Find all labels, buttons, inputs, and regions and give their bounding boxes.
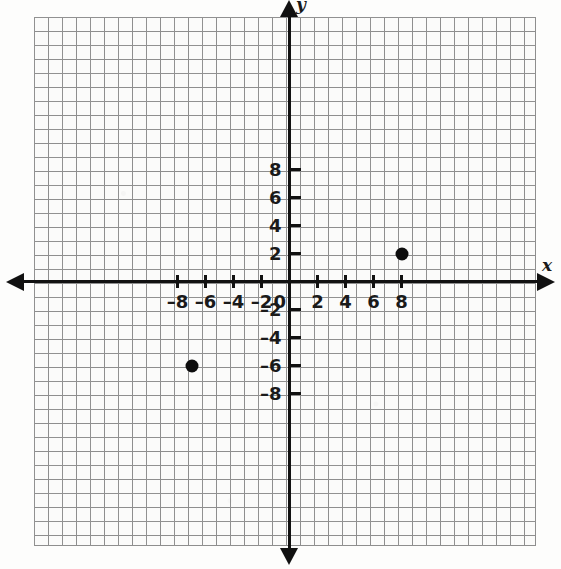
y-axis-tick xyxy=(288,252,301,255)
x-axis-right-arrow-icon xyxy=(537,273,555,291)
y-axis-tick xyxy=(288,168,301,171)
y-axis-tick-label: 8 xyxy=(244,161,282,179)
x-axis-left-arrow-icon xyxy=(6,273,24,291)
y-axis-tick xyxy=(288,196,301,199)
x-axis-line xyxy=(18,280,543,283)
x-axis-tick xyxy=(400,275,403,288)
y-axis-tick-label: –4 xyxy=(244,329,282,347)
x-axis-tick-label: –8 xyxy=(167,293,189,311)
x-axis-tick xyxy=(204,275,207,288)
y-axis-line xyxy=(288,10,291,555)
y-axis-tick-label: –6 xyxy=(244,357,282,375)
y-axis-tick-label: 6 xyxy=(244,189,282,207)
y-axis-tick xyxy=(288,308,301,311)
x-axis-tick xyxy=(232,275,235,288)
x-axis-tick xyxy=(344,275,347,288)
x-axis-tick-label: –6 xyxy=(195,293,217,311)
y-axis-tick xyxy=(288,364,301,367)
x-axis-tick-label: 6 xyxy=(367,293,380,311)
y-axis-tick-label: –8 xyxy=(244,385,282,403)
x-axis-tick xyxy=(260,275,263,288)
x-axis-tick xyxy=(316,275,319,288)
x-axis-tick-label: 2 xyxy=(311,293,324,311)
x-axis-tick-label: –4 xyxy=(223,293,245,311)
x-axis-tick xyxy=(176,275,179,288)
data-point xyxy=(185,359,198,372)
y-axis-tick xyxy=(288,224,301,227)
y-axis-tick-label: –2 xyxy=(244,301,282,319)
y-axis-label: y xyxy=(296,0,306,14)
y-axis-tick-label: 2 xyxy=(244,245,282,263)
y-axis-tick-label: 4 xyxy=(244,217,282,235)
y-axis-down-arrow-icon xyxy=(280,548,298,565)
y-axis-tick xyxy=(288,392,301,395)
y-axis-tick xyxy=(288,336,301,339)
data-point xyxy=(395,247,408,260)
x-axis-tick xyxy=(372,275,375,288)
x-axis-tick-label: 8 xyxy=(395,293,408,311)
x-axis-label: x xyxy=(542,255,552,275)
x-axis-tick-label: 4 xyxy=(339,293,352,311)
coordinate-plane-figure: x y –8–6–4–2024688642–2–4–6–8 xyxy=(0,0,561,569)
